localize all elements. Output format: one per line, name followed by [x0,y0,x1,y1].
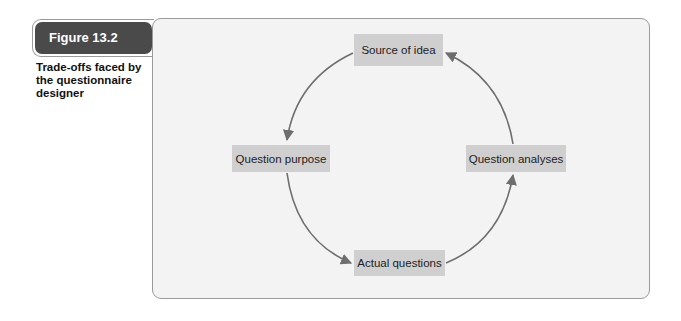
arrow-source-to-purpose [287,53,353,140]
arrow-purpose-to-actual [287,173,351,263]
node-question-analyses: Question analyses [466,145,566,172]
cycle-arrows [0,0,681,321]
arrow-actual-to-analyses [446,175,513,263]
node-actual-questions: Actual questions [354,250,445,276]
node-source-of-idea: Source of idea [354,34,443,66]
arrow-analyses-to-source [446,53,513,144]
node-question-purpose: Question purpose [232,145,330,172]
